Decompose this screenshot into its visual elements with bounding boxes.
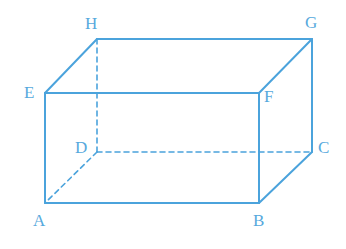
edge-c-b — [259, 152, 312, 203]
vertex-label-h: H — [85, 15, 97, 32]
vertex-label-b: B — [253, 212, 264, 229]
edge-layer — [45, 39, 312, 203]
edge-d-a-hidden — [45, 152, 97, 203]
vertex-label-a: A — [33, 212, 45, 229]
vertex-label-g: G — [305, 14, 317, 31]
edge-e-h — [45, 39, 97, 93]
vertex-label-d: D — [75, 139, 87, 156]
edge-g-f — [259, 39, 312, 93]
vertex-label-c: C — [318, 139, 329, 156]
vertex-label-e: E — [24, 84, 34, 101]
vertex-label-f: F — [264, 88, 273, 105]
cuboid-wireframe — [0, 0, 346, 249]
cuboid-figure: ABCDEFGH — [0, 0, 346, 249]
